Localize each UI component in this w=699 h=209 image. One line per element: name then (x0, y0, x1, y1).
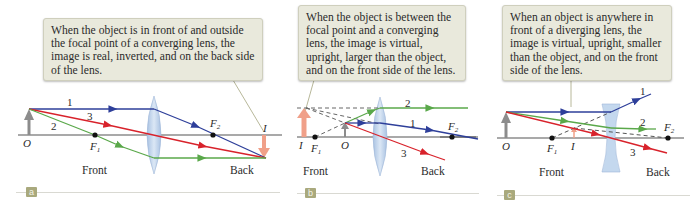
panel-c (497, 80, 684, 172)
ray-label-3: 3 (401, 147, 407, 159)
panel-a (18, 80, 282, 174)
back-label: Back (421, 165, 445, 177)
image-label: I (262, 122, 268, 134)
focal-point-f2 (665, 135, 670, 140)
panel-badge-b: b (305, 188, 316, 198)
ray-label-2: 2 (640, 116, 646, 128)
front-label: Front (82, 164, 108, 176)
back-label: Back (230, 164, 254, 176)
image-label: I (298, 139, 304, 151)
object-label: O (341, 139, 349, 151)
front-label: Front (303, 165, 329, 177)
ray-label-3: 3 (87, 110, 93, 122)
f1-label: F1 (546, 142, 557, 156)
focal-point-f1 (312, 134, 317, 139)
object-arrow (501, 112, 511, 123)
f2-label: F2 (209, 117, 221, 131)
object-label: O (23, 137, 31, 149)
focal-point-f2 (210, 132, 215, 137)
ray-label-1: 1 (640, 85, 646, 97)
divider-b (297, 193, 479, 194)
callout-panel-b: When the object is between the focal poi… (298, 5, 466, 81)
panel-badge-a: a (26, 187, 37, 197)
focal-point-f1 (92, 132, 97, 137)
ray-label-3: 3 (630, 146, 636, 158)
back-label: Back (646, 166, 670, 178)
focal-point-f2 (449, 134, 454, 139)
panel-badge-c: c (504, 190, 515, 200)
divider-a (16, 192, 280, 193)
callout-panel-c: When an object is anywhere in front of a… (502, 5, 672, 81)
front-label: Front (539, 166, 565, 178)
f1-label: F1 (89, 140, 100, 154)
focal-point-f1 (549, 135, 554, 140)
f2-label: F2 (447, 120, 459, 134)
callout-panel-a: When the object is in front of and outsi… (43, 18, 263, 81)
ray-label-1: 1 (410, 117, 416, 129)
ray-label-2: 2 (51, 120, 57, 132)
object-label: O (502, 140, 510, 152)
image-label: I (570, 140, 576, 152)
ray-label-1: 1 (67, 96, 73, 108)
f2-label: F2 (663, 121, 675, 135)
divider-c (497, 195, 690, 196)
f1-label: F1 (310, 142, 321, 156)
ray-label-2: 2 (405, 97, 411, 109)
